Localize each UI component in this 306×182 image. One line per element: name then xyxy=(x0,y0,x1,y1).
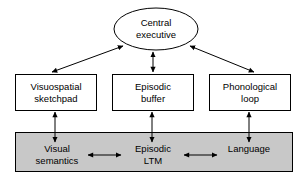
phonological-loop-shape xyxy=(210,75,291,111)
central-executive-shape xyxy=(114,8,198,50)
diagram-canvas: Central executive Visuospatial sketchpad… xyxy=(0,0,306,182)
visuospatial-sketchpad-shape xyxy=(16,75,97,111)
connector-phonological-loop-central-executive xyxy=(190,46,254,72)
diagram-graphics xyxy=(0,0,306,182)
episodic-buffer-shape xyxy=(113,75,194,111)
connector-sketchpad-central-executive xyxy=(52,46,123,72)
long-term-memory-panel xyxy=(16,133,293,172)
